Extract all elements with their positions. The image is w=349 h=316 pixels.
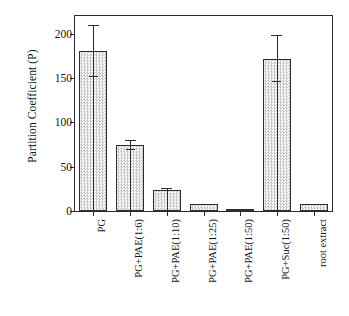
error-bar-cap [271, 35, 282, 36]
x-tick-mark [204, 211, 205, 216]
error-bar-cap [272, 81, 281, 82]
x-tick-label: PG+PAE(1:50) [243, 219, 254, 283]
y-tick-label: 200 [55, 27, 72, 39]
x-tick-label: PG+PAE(1:10) [170, 219, 181, 283]
x-tick-label: PG [96, 219, 107, 232]
x-tick-mark [167, 211, 168, 216]
error-bar [277, 36, 278, 211]
x-tick-mark [277, 211, 278, 216]
y-tick-label: 50 [61, 160, 73, 172]
y-tick-label: 0 [66, 205, 72, 217]
x-tick-mark [93, 211, 94, 216]
bar [300, 204, 328, 211]
x-tick-mark [130, 211, 131, 216]
plot-area: 050100150200 [75, 16, 332, 211]
error-bar [93, 26, 94, 211]
y-tick-label: 100 [55, 116, 72, 128]
error-bar-cap [162, 190, 171, 191]
y-tick-label: 150 [55, 72, 72, 84]
x-tick-label: PG+Suc(1:50) [280, 219, 291, 280]
x-tick-label: root extract [317, 219, 328, 267]
x-tick-mark [314, 211, 315, 216]
bar [190, 204, 218, 211]
error-bar-cap [125, 140, 136, 141]
x-tick-label: PG+PAE(1:6) [133, 219, 144, 278]
figure: Partition Coefficient (P) 050100150200 P… [0, 0, 349, 316]
plot-frame: 050100150200 [74, 15, 333, 212]
error-bar-cap [88, 25, 99, 26]
error-bar-cap [126, 149, 135, 150]
x-tick-mark [240, 211, 241, 216]
x-tick-label: PG+PAE(1:25) [207, 219, 218, 283]
error-bar-cap [89, 76, 98, 77]
y-axis-title: Partition Coefficient (P) [26, 16, 38, 196]
error-bar [167, 189, 168, 211]
error-bar [130, 141, 131, 211]
